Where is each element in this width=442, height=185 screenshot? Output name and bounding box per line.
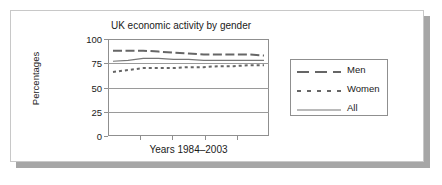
plot-area: 1007550250 (108, 39, 269, 136)
chart-figure: UK economic activity by gender Percentag… (11, 11, 425, 163)
legend-swatch-all-icon (296, 102, 342, 114)
y-tick-label: 100 (86, 34, 102, 45)
x-tick-mark (205, 136, 206, 140)
series-line-men (113, 51, 264, 56)
x-tick-mark (172, 136, 173, 140)
y-tick-label: 25 (91, 106, 102, 117)
y-tick-mark (104, 136, 108, 137)
series-line-all (113, 58, 264, 61)
chart-title: UK economic activity by gender (71, 20, 291, 31)
legend-label: Women (347, 83, 380, 94)
legend-swatch-men-icon (296, 64, 342, 76)
legend-swatch-women-icon (296, 83, 342, 95)
chart-panel: UK economic activity by gender Percentag… (10, 10, 424, 162)
x-tick-mark (140, 136, 141, 140)
legend-label: All (347, 102, 358, 113)
legend-item-men: Men (291, 60, 389, 79)
y-tick-label: 75 (91, 58, 102, 69)
legend-label: Men (347, 64, 365, 75)
series-line-women (113, 65, 264, 72)
y-axis-label: Percentages (30, 34, 41, 124)
x-axis-label: Years 1984–2003 (108, 144, 269, 155)
y-tick-label: 50 (91, 82, 102, 93)
screenshot-root: UK economic activity by gender Percentag… (0, 0, 442, 185)
legend-item-women: Women (291, 79, 389, 98)
y-tick-label: 0 (97, 131, 102, 142)
chart-legend: MenWomenAll (290, 59, 388, 116)
x-tick-mark (237, 136, 238, 140)
data-series-layer (108, 39, 269, 136)
legend-item-all: All (291, 98, 389, 117)
